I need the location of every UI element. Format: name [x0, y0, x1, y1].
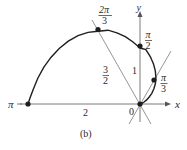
radius-label-three-halves-numerator: 3 [103, 64, 108, 75]
figure-caption: (b) [80, 128, 92, 140]
x-axis-arrow-icon [165, 102, 171, 107]
label-pi-over-2: π 2 [145, 29, 152, 51]
point-pi [25, 101, 30, 106]
point-pi-over-2 [137, 43, 142, 48]
label-pi-over-3: π 3 [161, 72, 168, 94]
point-pi-over-3 [151, 77, 156, 82]
radius-label-2: 2 [83, 107, 88, 118]
label-pi: π [8, 98, 14, 110]
label-pi-over-3-numerator: π [161, 72, 167, 83]
radius-label-three-halves: 3 2 [103, 64, 110, 86]
label-pi-over-2-numerator: π [146, 29, 152, 40]
label-two-pi-over-3: 2π 3 [99, 4, 113, 26]
radius-label-1: 1 [132, 65, 137, 76]
label-two-pi-over-3-numerator: 2π [99, 4, 110, 15]
x-axis-label: x [174, 98, 180, 110]
label-pi-over-2-denominator: 2 [146, 40, 151, 51]
label-pi-over-3-denominator: 3 [161, 83, 166, 94]
point-two-pi-over-3 [95, 27, 100, 32]
point-origin [137, 101, 142, 106]
label-two-pi-over-3-denominator: 3 [102, 15, 107, 26]
origin-label: 0 [129, 106, 134, 117]
radius-label-three-halves-denominator: 2 [103, 75, 108, 86]
x-axis [20, 102, 171, 107]
y-axis-label: y [136, 2, 142, 13]
polar-curve-diagram: x y 0 π 2π 3 π 2 π 3 2 3 2 1 (b) [0, 0, 187, 150]
